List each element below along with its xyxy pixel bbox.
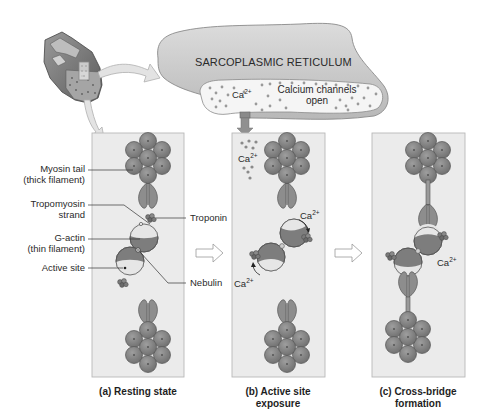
label-tropomyosin: Tropomyosin strand — [30, 198, 85, 220]
arrow-to-sr — [98, 64, 160, 82]
sr-calcium-label: Ca2+ — [232, 88, 252, 100]
label-nebulin: Nebulin — [190, 277, 222, 288]
label-g-actin: G-actin (thin filament) — [27, 232, 85, 254]
sr-channel-label-line1: Calcium channels — [272, 84, 362, 95]
ca-label-b-top: Ca2+ — [238, 152, 258, 164]
sr-title: SARCOPLASMIC RETICULUM — [195, 56, 352, 68]
arrow-b-to-c — [335, 244, 362, 262]
arrow-to-panel-a — [84, 100, 104, 138]
label-active-site: Active site — [42, 262, 85, 273]
sr-channel-label: Calcium channels open — [272, 84, 362, 106]
caption-panel-a: (a) Resting state — [82, 386, 194, 398]
arrow-a-to-b — [196, 244, 223, 262]
ca-label-b-lower-left: Ca2+ — [234, 277, 254, 289]
muscle-fiber-illustration — [44, 32, 102, 103]
caption-panel-c: (c) Cross-bridge formation — [362, 386, 474, 410]
caption-panel-b: (b) Active site exposure — [222, 386, 334, 410]
label-troponin: Troponin — [190, 212, 227, 223]
label-myosin-tail: Myosin tail (thick filament) — [23, 163, 85, 185]
sr-channel-label-line2: open — [272, 95, 362, 106]
ca-label-b-upper-right: Ca2+ — [300, 209, 320, 221]
ca-label-c-right: Ca2+ — [437, 256, 457, 268]
